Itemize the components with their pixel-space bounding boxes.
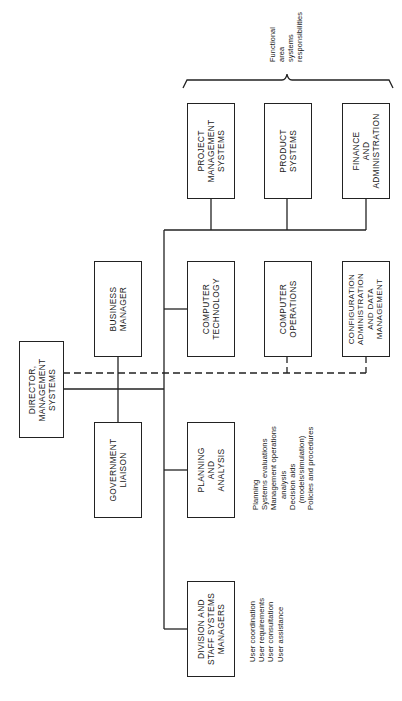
division-staff-responsibilities: User coordination User requirements User… [242,590,290,670]
planning-analysis-responsibilities: Planning Systems evaluations Management … [242,416,324,520]
node-government-liaison: GOVERNMENT LIAISON [94,422,142,518]
node-planning-analysis: PLANNING AND ANALYSIS [187,422,235,518]
node-finance-administration: FINANCE AND ADMINISTRATION [342,103,390,199]
node-product-systems: PRODUCT SYSTEMS [264,103,312,199]
node-business-manager: BUSINESS MANAGER [94,261,142,357]
node-division-staff-systems-managers: DIVISION AND STAFF SYSTEMS MANAGERS [187,581,235,677]
node-computer-technology: COMPUTER TECHNOLOGY [187,261,235,357]
node-director-management-systems: DIRECTOR, MANAGEMENT SYSTEMS [19,341,64,438]
org-chart: Functional area systems responsibilities… [0,0,402,701]
node-computer-operations: COMPUTER OPERATIONS [264,261,312,357]
node-configuration-administration: CONFIGURATION ADMINISTRATION AND DATA MA… [342,261,390,357]
node-project-management-systems: PROJECT MANAGEMENT SYSTEMS [187,103,235,199]
functional-area-brace [183,74,393,88]
functional-area-label: Functional area systems responsibilities [262,4,310,70]
